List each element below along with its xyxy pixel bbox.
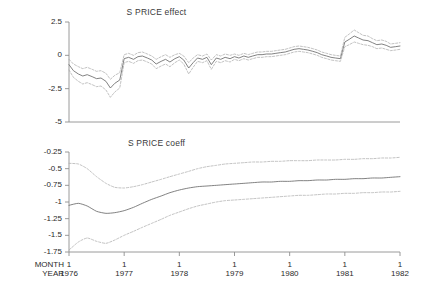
plot-area-effect (0, 0, 423, 135)
panel-s-price-effect: S PRICE effect 2.50-2.5-5 (0, 0, 423, 135)
x-tick-year-label: 1978 (159, 269, 199, 278)
series-coefficient (69, 177, 400, 214)
x-tick-month-label: 1 (104, 260, 144, 269)
panel-s-price-coeff: S PRICE coeff -0.25-0.5-0.75-1-1.25-1.5-… (0, 135, 423, 293)
series-upper-ci (69, 157, 400, 188)
x-tick-month-label: 1 (159, 260, 199, 269)
x-tick-year-label: 1982 (380, 269, 420, 278)
x-tick-year-label: 1977 (104, 269, 144, 278)
series-lower-ci (69, 191, 400, 250)
x-tick-year-label: 1980 (270, 269, 310, 278)
series-upper-band (69, 30, 400, 79)
figure-root: S PRICE effect 2.50-2.5-5 S PRICE coeff … (0, 0, 423, 293)
x-tick-year-label: 1981 (325, 269, 365, 278)
x-tick-year-label: 1979 (215, 269, 255, 278)
x-tick-month-label: 1 (215, 260, 255, 269)
series-lower-band (69, 42, 400, 97)
x-tick-month-label: 1 (380, 260, 420, 269)
x-tick-year-label: 1976 (49, 269, 89, 278)
x-tick-month-label: 1 (270, 260, 310, 269)
x-tick-month-label: 1 (49, 260, 89, 269)
x-tick-month-label: 1 (325, 260, 365, 269)
